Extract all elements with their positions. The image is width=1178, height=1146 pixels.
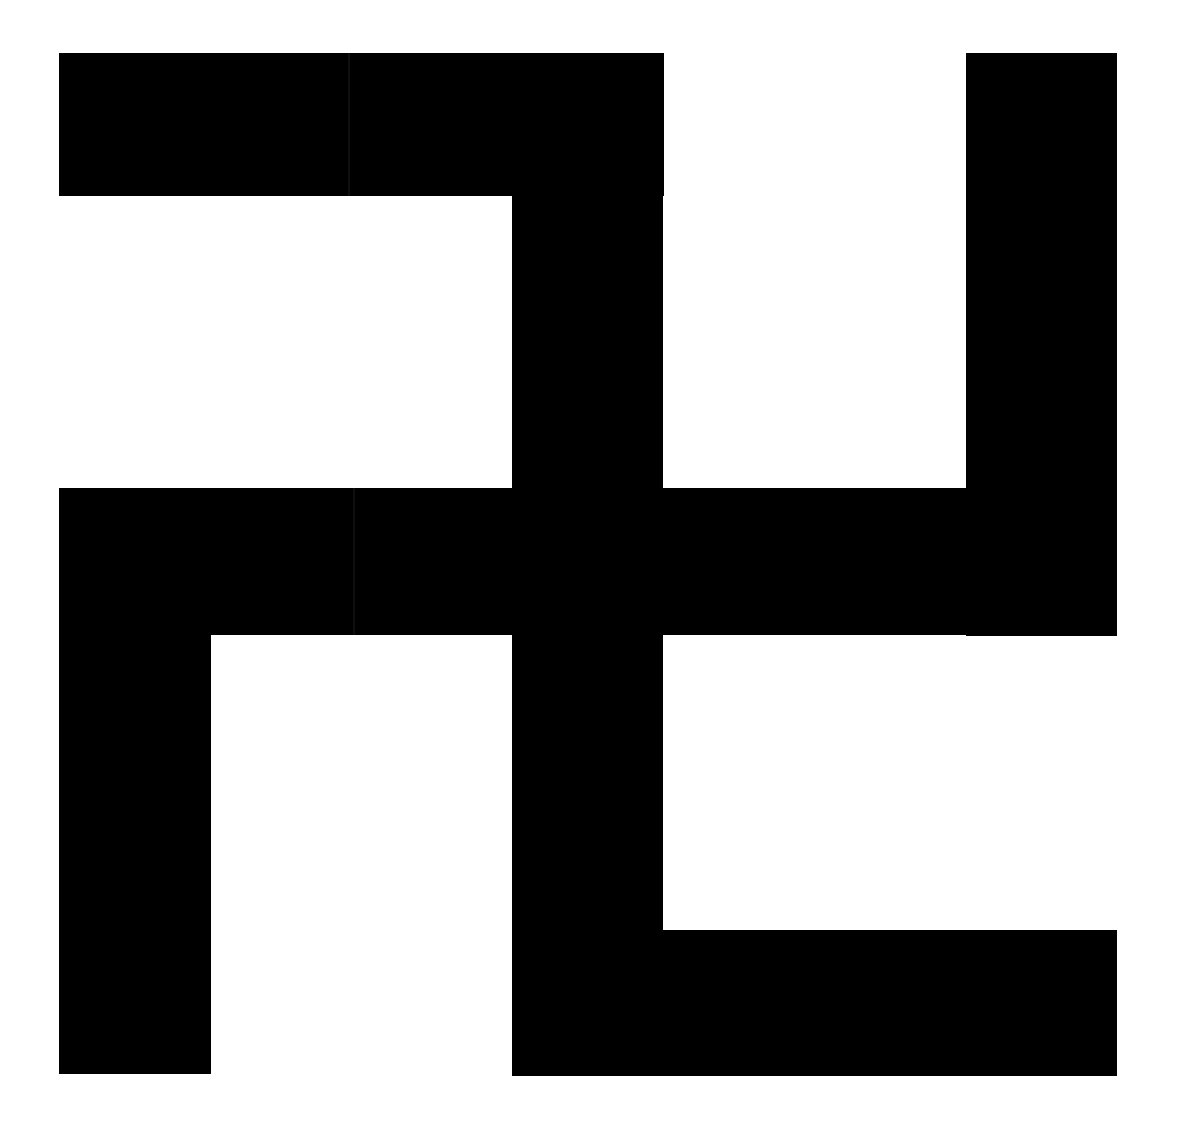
bar-top-arm-horizontal bbox=[59, 53, 664, 196]
bar-bottom-arm-horizontal bbox=[512, 930, 1117, 1076]
figure-canvas bbox=[0, 0, 1178, 1146]
bar-center-vertical bbox=[512, 196, 663, 930]
swastika-pinwheel-figure bbox=[0, 0, 1178, 1146]
bar-left-arm-vertical bbox=[59, 488, 211, 1074]
